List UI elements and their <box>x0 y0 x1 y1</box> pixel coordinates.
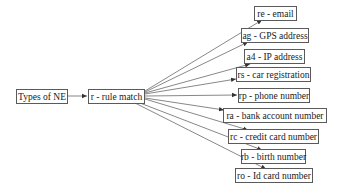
node-label: a4 - IP address <box>247 51 303 63</box>
node-label: Types of NE <box>18 91 66 103</box>
node-birth-number: rb - birth number <box>241 149 306 164</box>
node-id-card-number: ro - Id card number <box>235 168 313 183</box>
node-rule-match: r - rule match <box>88 89 145 104</box>
node-label: ro - Id card number <box>237 170 311 182</box>
node-email: re - email <box>254 6 297 21</box>
node-label: rb - birth number <box>241 151 306 163</box>
node-bank-account-number: ra - bank account number <box>223 108 327 123</box>
edge-rule-to-rp <box>145 95 237 96</box>
node-label: ra - bank account number <box>226 110 323 122</box>
node-gps-address: ag - GPS address <box>241 28 309 43</box>
node-label: ag - GPS address <box>242 30 307 42</box>
node-label: rs - car registration <box>238 69 310 81</box>
node-label: rc - credit card number <box>230 131 317 143</box>
node-label: re - email <box>257 8 293 20</box>
node-label: rp - phone number <box>239 90 309 102</box>
node-car-registration: rs - car registration <box>236 67 311 82</box>
edge-rule-to-ag <box>145 42 248 92</box>
node-label: r - rule match <box>91 91 142 103</box>
edge-rule-to-a4 <box>145 64 250 93</box>
node-credit-card-number: rc - credit card number <box>228 129 319 144</box>
edge-rule-to-ra <box>145 98 224 110</box>
edge-rule-to-rs <box>145 79 236 94</box>
node-types-of-ne: Types of NE <box>16 89 68 104</box>
node-phone-number: rp - phone number <box>238 88 310 103</box>
node-ip-address: a4 - IP address <box>244 49 305 64</box>
